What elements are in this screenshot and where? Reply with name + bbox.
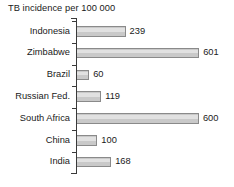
bar-row: Indonesia 239 [0, 21, 234, 43]
category-label: Indonesia [4, 25, 70, 37]
bar[interactable] [77, 70, 89, 81]
axis-tick [72, 152, 77, 153]
bar-value-label: 168 [115, 155, 131, 167]
bar[interactable] [77, 113, 199, 124]
category-label: South Africa [4, 112, 70, 124]
bar-value-label: 100 [101, 134, 117, 146]
category-label: China [4, 134, 70, 146]
bar-row: Zimbabwe 601 [0, 43, 234, 65]
category-label: Zimbabwe [4, 46, 70, 58]
axis-tick [72, 21, 77, 22]
axis-tick [72, 86, 77, 87]
axis-tick [72, 108, 77, 109]
bar-value-label: 239 [130, 25, 146, 37]
bar-row: Brazil 60 [0, 65, 234, 87]
chart-title: TB incidence per 100 000 [8, 3, 115, 14]
bar[interactable] [77, 91, 101, 102]
bar[interactable] [77, 26, 126, 37]
bar-row: China 100 [0, 130, 234, 152]
bar-chart: TB incidence per 100 000 Indonesia 239 Z… [0, 0, 234, 187]
bar-value-label: 601 [203, 46, 219, 58]
category-label: India [4, 155, 70, 167]
bar[interactable] [77, 135, 97, 146]
bar-row: Russian Fed. 119 [0, 86, 234, 108]
bar-value-label: 600 [203, 112, 219, 124]
axis-tick [72, 65, 77, 66]
bar[interactable] [77, 157, 111, 168]
axis-tick [72, 43, 77, 44]
category-label: Brazil [4, 68, 70, 80]
bar-value-label: 119 [105, 90, 120, 102]
plot-area: Indonesia 239 Zimbabwe 601 Brazil 60 Rus… [0, 18, 234, 175]
axis-tick [72, 130, 77, 131]
bar-row: South Africa 600 [0, 108, 234, 130]
category-label: Russian Fed. [4, 90, 70, 102]
bar-value-label: 60 [93, 68, 103, 80]
bar[interactable] [77, 48, 199, 59]
bar-row: India 168 [0, 152, 234, 174]
